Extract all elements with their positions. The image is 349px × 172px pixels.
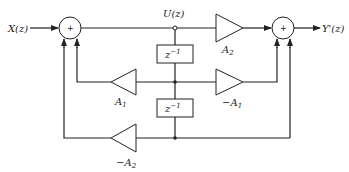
gain-neg-a2-feedback-triangle xyxy=(111,124,136,152)
input-label: X(z) xyxy=(7,23,28,34)
gain-a1-feedback-label: A1 xyxy=(114,96,127,109)
gain-a1-feedback-triangle xyxy=(111,69,136,95)
gain-neg-a1-forward-triangle xyxy=(216,69,243,95)
u-node xyxy=(173,26,177,30)
svg-text:+: + xyxy=(280,24,287,33)
block-diagram: X(z) + U(z) A2 + Y'(z) z−1 z−1 A1 −A1 −A… xyxy=(0,0,349,172)
gain-a2-top-triangle xyxy=(216,14,243,42)
right-summer: + xyxy=(272,17,294,39)
gain-neg-a1-forward-label: −A1 xyxy=(222,97,242,110)
svg-text:+: + xyxy=(67,24,74,33)
neg-a1-forward-path xyxy=(243,47,277,82)
gain-a2-top-label: A2 xyxy=(221,44,234,57)
output-label: Y'(z) xyxy=(322,23,345,34)
gain-neg-a2-feedback-label: −A2 xyxy=(116,157,137,170)
u-label: U(z) xyxy=(163,8,185,19)
neg-a2-feedback-path xyxy=(64,47,111,138)
left-summer: + xyxy=(59,17,81,39)
a1-feedback-path xyxy=(77,47,111,82)
